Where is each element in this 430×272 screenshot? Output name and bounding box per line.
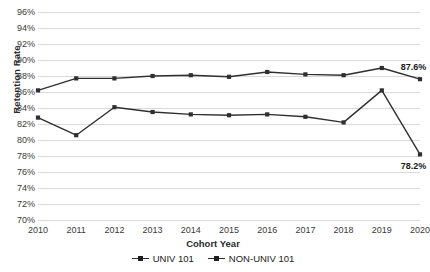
y-axis-tick-label: 88% bbox=[17, 72, 35, 81]
y-axis-tick-label: 86% bbox=[17, 88, 35, 97]
data-point-marker bbox=[418, 77, 422, 81]
data-point-marker bbox=[265, 112, 269, 116]
legend-label: NON-UNIV 101 bbox=[229, 253, 294, 264]
series-line bbox=[38, 90, 420, 154]
data-label: 78.2% bbox=[401, 161, 427, 171]
data-point-marker bbox=[112, 105, 116, 109]
data-point-marker bbox=[380, 88, 384, 92]
data-point-marker bbox=[36, 88, 40, 92]
y-axis-tick-label: 80% bbox=[17, 136, 35, 145]
series-line bbox=[38, 68, 420, 90]
y-axis-tick-label: 72% bbox=[17, 200, 35, 209]
data-point-marker bbox=[342, 73, 346, 77]
y-axis-tick-label: 78% bbox=[17, 152, 35, 161]
x-axis-tick-label: 2015 bbox=[219, 226, 239, 235]
x-axis-tick-label: 2013 bbox=[143, 226, 163, 235]
legend-item[interactable]: UNIV 101 bbox=[132, 253, 194, 264]
data-point-marker bbox=[112, 76, 116, 80]
x-axis-tick-label: 2018 bbox=[334, 226, 354, 235]
data-point-marker bbox=[151, 110, 155, 114]
x-axis-tick-label: 2014 bbox=[181, 226, 201, 235]
data-point-marker bbox=[74, 76, 78, 80]
gridline bbox=[38, 220, 420, 221]
y-axis-tick-label: 84% bbox=[17, 104, 35, 113]
data-point-marker bbox=[303, 72, 307, 76]
chart-legend: UNIV 101NON-UNIV 101 bbox=[0, 253, 426, 264]
y-axis-tick-label: 74% bbox=[17, 184, 35, 193]
data-point-marker bbox=[227, 113, 231, 117]
y-axis-tick-label: 82% bbox=[17, 120, 35, 129]
data-point-marker bbox=[189, 112, 193, 116]
data-point-marker bbox=[36, 116, 40, 120]
data-point-marker bbox=[303, 115, 307, 119]
data-point-marker bbox=[227, 75, 231, 79]
x-axis-tick-label: 2019 bbox=[372, 226, 392, 235]
legend-marker-icon bbox=[132, 254, 149, 263]
data-point-marker bbox=[151, 74, 155, 78]
data-point-marker bbox=[380, 66, 384, 70]
legend-label: UNIV 101 bbox=[153, 253, 194, 264]
x-axis-tick-label: 2012 bbox=[104, 226, 124, 235]
legend-marker-icon bbox=[208, 254, 225, 263]
data-point-marker bbox=[265, 70, 269, 74]
y-axis-tick-label: 96% bbox=[17, 8, 35, 17]
series-lines bbox=[38, 12, 420, 220]
plot-area: 96%94%92%90%88%86%84%82%80%78%76%74%72%7… bbox=[38, 12, 420, 220]
legend-item[interactable]: NON-UNIV 101 bbox=[208, 253, 294, 264]
x-axis-tick-label: 2011 bbox=[67, 226, 86, 235]
y-axis-tick-label: 92% bbox=[17, 40, 35, 49]
data-point-marker bbox=[418, 152, 422, 156]
data-point-marker bbox=[342, 120, 346, 124]
x-axis-tick-label: 2016 bbox=[257, 226, 277, 235]
x-axis-tick-label: 2020 bbox=[410, 226, 430, 235]
y-axis-tick-label: 70% bbox=[17, 216, 35, 225]
y-axis-tick-label: 94% bbox=[17, 24, 35, 33]
x-axis-tick-label: 2010 bbox=[28, 226, 48, 235]
y-axis-tick-label: 76% bbox=[17, 168, 35, 177]
data-label: 87.6% bbox=[401, 62, 427, 72]
y-axis-tick-label: 90% bbox=[17, 56, 35, 65]
x-axis-title: Cohort Year bbox=[0, 238, 426, 249]
data-point-marker bbox=[74, 133, 78, 137]
x-axis-tick-label: 2017 bbox=[295, 226, 315, 235]
data-point-marker bbox=[189, 73, 193, 77]
